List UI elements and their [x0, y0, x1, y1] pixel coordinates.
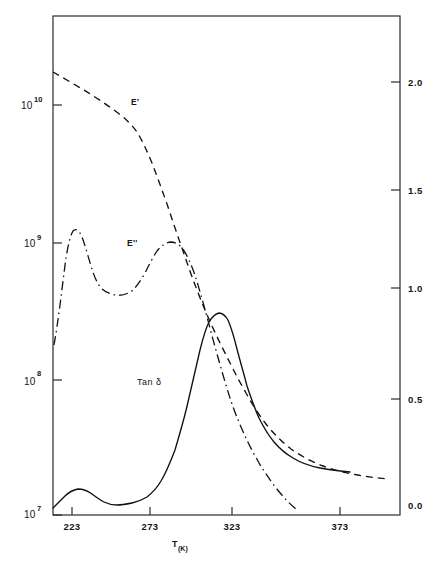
tan-delta-label: Tan δ [137, 377, 162, 387]
right-axis-ticks [391, 82, 400, 399]
right-axis-tick-labels: 2.0 1.5 1.0 0.5 0.0 [408, 77, 423, 511]
series-e-double-prime-line [54, 230, 296, 509]
x-axis-title-sub: (K) [178, 545, 188, 553]
series-tan-delta-line [53, 313, 350, 508]
left-tick-exponent: 7 [37, 504, 41, 513]
left-tick-label-1e10: 10 10 [21, 95, 42, 111]
right-tick-label-2-0: 2.0 [408, 77, 423, 88]
x-tick-label-273: 273 [141, 521, 158, 532]
left-tick-exponent: 8 [37, 369, 41, 378]
left-tick-mantissa: 10 [24, 509, 36, 520]
x-tick-label-373: 373 [331, 521, 348, 532]
left-tick-label-1e7: 10 7 [24, 504, 41, 520]
left-tick-label-1e8: 10 8 [24, 369, 41, 387]
x-axis-ticks [72, 507, 340, 515]
x-tick-label-223: 223 [63, 521, 80, 532]
left-tick-exponent: 10 [34, 95, 42, 104]
right-tick-label-0-0: 0.0 [408, 500, 423, 511]
left-axis-ticks [53, 105, 62, 515]
left-tick-exponent: 9 [37, 233, 41, 242]
plot-frame [53, 16, 400, 515]
x-tick-label-323: 323 [223, 521, 240, 532]
right-tick-label-1-0: 1.0 [408, 283, 423, 294]
x-axis-tick-labels: 223 273 323 373 [63, 521, 348, 532]
left-tick-mantissa: 10 [24, 238, 36, 249]
chart-svg: 10 10 10 9 10 8 10 7 2.0 [0, 0, 436, 561]
chart-figure: 10 10 10 9 10 8 10 7 2.0 [0, 0, 436, 561]
left-tick-label-1e9: 10 9 [24, 233, 41, 249]
left-tick-mantissa: 10 [21, 100, 33, 111]
left-tick-mantissa: 10 [24, 376, 36, 387]
x-axis-title: T (K) [172, 539, 188, 553]
right-tick-label-1-5: 1.5 [408, 185, 423, 196]
e-double-prime-label: E'' [127, 238, 138, 248]
right-tick-label-0-5: 0.5 [408, 394, 423, 405]
curve-annotations: E' E'' Tan δ [127, 97, 162, 387]
e-prime-label: E' [131, 97, 139, 107]
left-axis-tick-labels: 10 10 10 9 10 8 10 7 [21, 95, 42, 520]
series-e-prime-line [53, 72, 388, 479]
